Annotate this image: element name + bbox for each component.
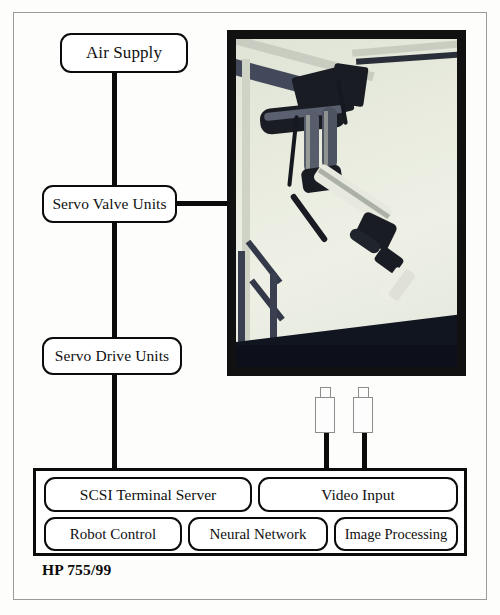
node-neural-network: Neural Network	[188, 517, 328, 551]
node-video-input: Video Input	[258, 477, 458, 512]
node-neural-network-label: Neural Network	[209, 526, 306, 543]
connector-air-supply-to-servo-valve	[112, 70, 117, 190]
figure-root: Air Supply Servo Valve Units Servo Drive…	[0, 0, 500, 615]
robot-arm-photo-content	[236, 39, 457, 367]
robot-arm-photo	[227, 30, 466, 376]
connector-servo-valve-to-robot-photo	[174, 201, 232, 206]
node-scsi-terminal-server-label: SCSI Terminal Server	[80, 486, 216, 504]
camera-body-icon	[315, 397, 335, 433]
node-scsi-terminal-server: SCSI Terminal Server	[44, 477, 252, 512]
chassis-caption: HP 755/99	[42, 561, 111, 579]
node-servo-valve-units: Servo Valve Units	[42, 185, 177, 223]
camera-body-icon	[353, 397, 373, 433]
camera-icon-2	[353, 387, 373, 433]
workstation-chassis: SCSI Terminal Server Video Input Robot C…	[33, 468, 467, 556]
node-robot-control-label: Robot Control	[70, 526, 156, 543]
node-servo-drive-units-label: Servo Drive Units	[55, 347, 170, 365]
node-video-input-label: Video Input	[321, 486, 395, 504]
node-servo-drive-units: Servo Drive Units	[42, 337, 182, 375]
connector-servo-valve-to-servo-drive	[112, 219, 117, 341]
node-robot-control: Robot Control	[44, 517, 182, 551]
node-servo-valve-units-label: Servo Valve Units	[52, 195, 166, 213]
node-air-supply-label: Air Supply	[86, 43, 162, 63]
node-image-processing: Image Processing	[334, 517, 458, 551]
camera-icon-1	[315, 387, 335, 433]
node-image-processing-label: Image Processing	[345, 526, 448, 543]
node-air-supply: Air Supply	[60, 33, 188, 73]
connector-servo-drive-to-chassis	[112, 372, 117, 471]
